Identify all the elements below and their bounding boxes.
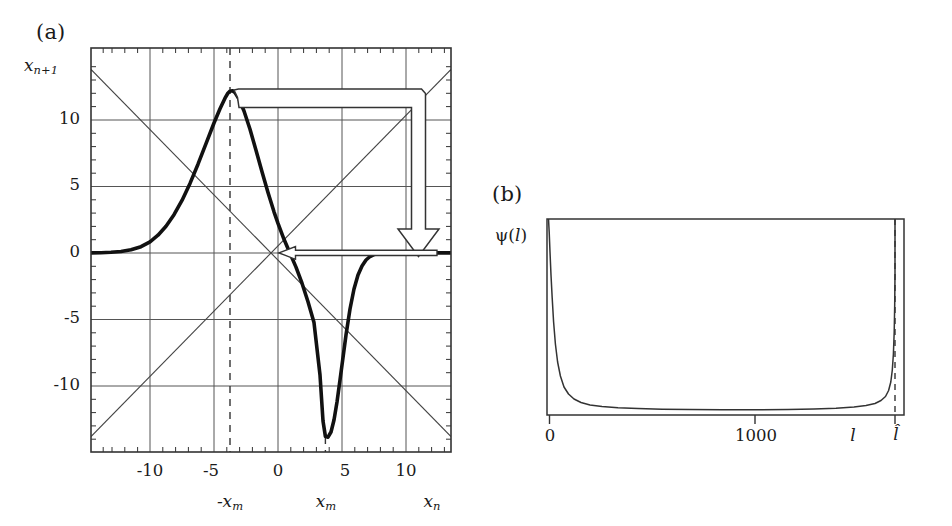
panel-a: (a) xn+1 [0,0,480,526]
panel-b-marker-lhat: l̂ [893,424,898,444]
panel-a-x-axis-title-subscript: n [433,499,440,513]
panel-a-x-axis-title: xn [423,491,440,511]
panel-a-ytick-0: 0 [70,242,81,261]
panel-a-xtick-10: 10 [396,461,417,480]
panel-a-plot-area [0,0,480,526]
panel-a-x-axis-title-base: x [423,491,433,511]
figure-container: (a) xn+1 [0,0,952,526]
panel-a-ytick-10: 10 [59,109,80,128]
panel-a-marker-neg-xm-base: -x [217,491,232,511]
panel-a-xtick-5: 5 [340,461,351,480]
panel-a-marker-neg-xm-subscript: m [232,499,243,513]
panel-b-svg [470,0,952,526]
panel-a-marker-pos-xm-subscript: m [325,499,336,513]
panel-b-xtick-0: 0 [545,426,556,445]
panel-a-ytick-neg10: -10 [53,375,80,394]
panel-a-ytick-neg5: -5 [64,308,80,327]
panel-a-marker-pos-xm: xm [316,491,337,511]
panel-a-xtick-neg10: -10 [137,461,164,480]
panel-a-marker-neg-xm: -xm [217,491,243,511]
panel-b-plot-background [547,219,904,415]
panel-a-svg [0,0,480,526]
panel-a-ytick-5: 5 [70,175,81,194]
panel-b-xtick-1000: 1000 [735,426,777,445]
panel-a-xtick-neg5: -5 [203,461,219,480]
panel-b-plot-area [470,0,952,526]
panel-b-x-axis-title: l [850,425,855,445]
panel-b-xticks [550,415,896,424]
panel-a-marker-pos-xm-base: x [316,491,326,511]
panel-a-xtick-0: 0 [273,461,284,480]
panel-b: (b) ψ(l) [470,0,952,526]
